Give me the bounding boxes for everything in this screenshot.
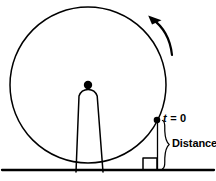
reference-block [143,158,157,170]
time-zero-value: = 0 [170,112,186,124]
distance-label: Distance [172,138,216,149]
rolling-wheel-figure: t = 0 Distance [0,0,216,181]
figure-canvas [0,0,216,181]
time-zero-label: t = 0 [163,113,186,124]
rotation-arrow-head [148,15,161,24]
hub-center-dot [84,81,92,89]
distance-brace [163,121,170,169]
axle-post [76,89,103,172]
rotation-arrow-arc [152,19,173,56]
